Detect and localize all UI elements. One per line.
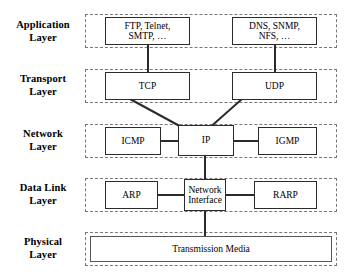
node-icmp[interactable]: ICMP	[105, 127, 161, 155]
node-igmp[interactable]: IGMP	[258, 127, 317, 155]
node-transmission-media[interactable]: Transmission Media	[90, 236, 332, 262]
node-network-interface-line1: Network	[185, 185, 225, 196]
node-ip[interactable]: IP	[178, 125, 234, 156]
node-app-right-line2: NFS, …	[233, 31, 316, 42]
node-tcp-label: TCP	[106, 81, 189, 92]
connector-network-interface-to-media	[204, 207, 206, 237]
connector-network-interface-to-rarp	[223, 194, 256, 196]
node-tcp[interactable]: TCP	[105, 72, 190, 100]
node-app-left-line2: SMTP, …	[106, 31, 189, 42]
node-network-interface-line2: Interface	[185, 195, 225, 206]
node-transmission-media-label: Transmission Media	[91, 244, 331, 255]
node-application-protocols-left[interactable]: FTP, Telnet, SMTP, …	[105, 17, 190, 45]
node-app-left-line1: FTP, Telnet,	[106, 21, 189, 32]
node-rarp-label: RARP	[255, 190, 316, 201]
node-igmp-label: IGMP	[259, 136, 316, 147]
node-network-interface[interactable]: Network Interface	[184, 179, 226, 211]
node-ip-label: IP	[179, 135, 233, 146]
node-arp[interactable]: ARP	[105, 181, 158, 209]
node-arp-label: ARP	[106, 190, 157, 201]
node-app-right-line1: DNS, SNMP,	[233, 21, 316, 32]
node-rarp[interactable]: RARP	[254, 181, 317, 209]
node-application-protocols-right[interactable]: DNS, SNMP, NFS, …	[232, 17, 317, 45]
node-icmp-label: ICMP	[106, 136, 160, 147]
tcpip-stack-diagram: Application Layer Transport Layer Networ…	[0, 0, 352, 276]
node-udp-label: UDP	[233, 81, 316, 92]
connector-arp-to-network-interface	[157, 194, 186, 196]
node-udp[interactable]: UDP	[232, 72, 317, 100]
